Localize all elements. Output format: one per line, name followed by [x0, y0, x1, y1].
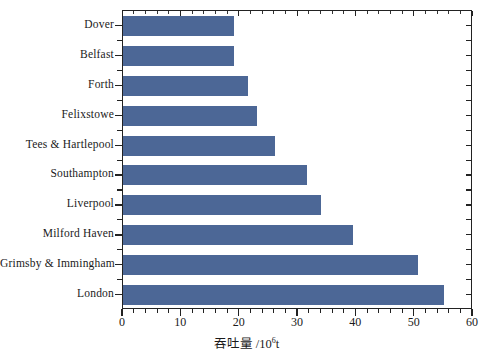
- x-axis-top-tick: [460, 11, 461, 14]
- x-axis-tick-label: 40: [335, 315, 375, 329]
- bar-fill: [123, 106, 257, 126]
- y-axis-tick: [115, 264, 122, 265]
- x-axis-top-tick: [308, 11, 309, 14]
- bar-fill: [123, 225, 353, 245]
- right-axis-tick: [466, 85, 471, 86]
- x-axis-title-units: /106t: [253, 337, 280, 351]
- x-axis-top-tick: [355, 11, 356, 16]
- bar-fill: [123, 16, 234, 36]
- right-axis-tick: [466, 204, 471, 205]
- x-axis-title-main: 吞吐量: [214, 336, 253, 351]
- x-axis-top-tick: [367, 11, 368, 14]
- y-axis-tick: [115, 145, 122, 146]
- y-axis-tick: [115, 85, 122, 86]
- x-axis-top-tick: [448, 11, 449, 14]
- x-axis-units-suffix: t: [276, 337, 279, 351]
- right-axis-tick: [466, 294, 471, 295]
- x-axis-tick-label: 20: [219, 315, 259, 329]
- y-axis-tick: [115, 115, 122, 116]
- x-axis-top-tick: [320, 11, 321, 14]
- x-axis-minor-tick: [425, 309, 426, 313]
- right-axis-tick: [466, 174, 471, 175]
- y-axis-tick: [115, 204, 122, 205]
- y-axis-label: Belfast: [0, 48, 114, 60]
- x-axis-minor-tick: [367, 309, 368, 313]
- bar-fill: [123, 195, 321, 215]
- x-axis-tick-label: 50: [394, 315, 434, 329]
- plot-area: [122, 10, 472, 309]
- x-axis-minor-tick: [460, 309, 461, 313]
- y-axis-label: Tees & Hartlepool: [0, 138, 114, 150]
- x-axis-minor-tick: [320, 309, 321, 313]
- bar: [123, 255, 418, 275]
- bar: [123, 165, 307, 185]
- y-axis-tick: [115, 234, 122, 235]
- right-axis-tick: [466, 264, 471, 265]
- x-axis-top-tick: [145, 11, 146, 14]
- x-axis-minor-tick: [437, 309, 438, 313]
- x-axis-tick-label: 30: [277, 315, 317, 329]
- x-axis-top-tick: [472, 11, 473, 16]
- x-axis-top-tick: [390, 11, 391, 14]
- x-axis-minor-tick: [332, 309, 333, 313]
- x-axis-minor-tick: [378, 309, 379, 313]
- x-axis-minor-tick: [250, 309, 251, 313]
- x-axis-top-tick: [285, 11, 286, 14]
- x-axis-top-tick: [332, 11, 333, 14]
- x-axis-top-tick: [262, 11, 263, 14]
- bar-fill: [123, 165, 307, 185]
- right-axis-tick: [466, 160, 471, 161]
- x-axis-minor-tick: [133, 309, 134, 313]
- x-axis-top-tick: [157, 11, 158, 14]
- x-axis-units-prefix: /10: [256, 337, 272, 351]
- right-axis-tick: [466, 189, 471, 190]
- bar-fill: [123, 76, 248, 96]
- x-axis-minor-tick: [262, 309, 263, 313]
- right-axis-tick: [466, 70, 471, 71]
- x-axis-minor-tick: [192, 309, 193, 313]
- x-axis-top-tick: [203, 11, 204, 14]
- right-axis-tick: [466, 25, 471, 26]
- x-axis-top-tick: [437, 11, 438, 14]
- x-axis-top-tick: [402, 11, 403, 14]
- bar: [123, 16, 234, 36]
- x-axis-minor-tick: [168, 309, 169, 313]
- y-axis-label: Southampton: [0, 167, 114, 179]
- x-axis-top-tick: [133, 11, 134, 14]
- right-axis-tick: [466, 100, 471, 101]
- right-axis-tick: [466, 219, 471, 220]
- x-axis-top-tick: [168, 11, 169, 14]
- y-axis-tick: [115, 25, 122, 26]
- bar: [123, 46, 234, 66]
- y-axis-label: Forth: [0, 78, 114, 90]
- x-axis-minor-tick: [157, 309, 158, 313]
- x-axis-top-tick: [378, 11, 379, 14]
- bar-fill: [123, 255, 418, 275]
- bar: [123, 225, 353, 245]
- x-axis-top-tick: [413, 11, 414, 16]
- y-axis-tick: [115, 174, 122, 175]
- x-axis-top-tick: [297, 11, 298, 16]
- x-axis-minor-tick: [227, 309, 228, 313]
- x-axis-minor-tick: [145, 309, 146, 313]
- x-axis-top-tick: [425, 11, 426, 14]
- x-axis-minor-tick: [273, 309, 274, 313]
- x-axis-top-tick: [343, 11, 344, 14]
- x-axis-minor-tick: [203, 309, 204, 313]
- right-axis-tick: [466, 55, 471, 56]
- x-axis-minor-tick: [390, 309, 391, 313]
- x-axis-top-tick: [215, 11, 216, 14]
- y-axis-label: Liverpool: [0, 197, 114, 209]
- y-axis-label: Milford Haven: [0, 227, 114, 239]
- x-axis-minor-tick: [308, 309, 309, 313]
- bar: [123, 136, 275, 156]
- x-axis-tick-label: 0: [102, 315, 142, 329]
- x-axis-top-tick: [180, 11, 181, 16]
- y-axis-label: London: [0, 287, 114, 299]
- x-axis-title: 吞吐量 /106t: [0, 333, 493, 352]
- bar-fill: [123, 136, 275, 156]
- x-axis-tick-label: 10: [160, 315, 200, 329]
- bar: [123, 76, 248, 96]
- y-axis-label: Grimsby & Immingham: [0, 257, 114, 269]
- bar: [123, 285, 444, 305]
